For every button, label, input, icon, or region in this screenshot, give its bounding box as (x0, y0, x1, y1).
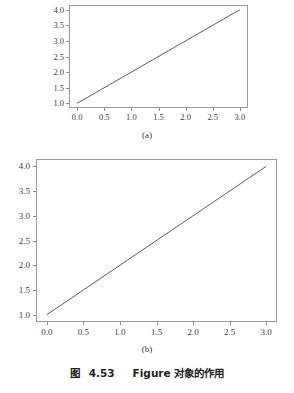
y-tick-label: 1.5 (42, 83, 64, 93)
x-tick-mark (213, 108, 214, 111)
y-tick-label: 2.0 (42, 67, 64, 77)
x-tick-mark (157, 322, 158, 325)
x-tick-mark (193, 322, 194, 325)
y-tick-label: 1.0 (42, 98, 64, 108)
x-tick-mark (104, 108, 105, 111)
chart-panel-a: 0.00.51.01.52.02.53.01.01.52.02.53.03.54… (69, 5, 248, 108)
plot-line-b (36, 159, 277, 322)
y-tick-label: 4.0 (42, 5, 64, 15)
x-tick-mark (186, 108, 187, 111)
y-tick-label: 3.0 (8, 211, 30, 221)
x-tick-mark (230, 322, 231, 325)
x-tick-label: 3.0 (235, 112, 246, 122)
figure-page: 0.00.51.01.52.02.53.01.01.52.02.53.03.54… (0, 0, 294, 393)
x-tick-label: 1.5 (151, 327, 162, 337)
x-tick-label: 2.0 (180, 112, 191, 122)
y-tick-mark (33, 191, 36, 192)
x-tick-mark (47, 322, 48, 325)
x-tick-mark (77, 108, 78, 111)
y-tick-mark (66, 10, 69, 11)
subfigure-label-b: (b) (0, 344, 294, 354)
caption-text: Figure 对象的作用 (133, 367, 225, 379)
x-tick-mark (131, 108, 132, 111)
x-tick-label: 1.0 (114, 327, 125, 337)
y-tick-label: 3.5 (8, 186, 30, 196)
subfigure-label-a: (a) (0, 130, 294, 140)
y-tick-label: 3.0 (42, 36, 64, 46)
y-tick-mark (66, 57, 69, 58)
x-tick-label: 3.0 (260, 327, 271, 337)
y-tick-mark (33, 290, 36, 291)
y-tick-label: 2.5 (42, 52, 64, 62)
x-tick-label: 0.0 (72, 112, 83, 122)
y-tick-mark (66, 25, 69, 26)
y-tick-label: 1.5 (8, 285, 30, 295)
caption-label: 图 (70, 367, 80, 379)
x-tick-mark (159, 108, 160, 111)
y-tick-mark (66, 41, 69, 42)
y-tick-mark (66, 103, 69, 104)
y-tick-label: 2.0 (8, 260, 30, 270)
y-tick-mark (66, 88, 69, 89)
chart-panel-b: 0.00.51.01.52.02.53.01.01.52.02.53.03.54… (36, 159, 277, 322)
x-tick-mark (240, 108, 241, 111)
x-tick-mark (83, 322, 84, 325)
x-tick-label: 2.5 (224, 327, 235, 337)
y-tick-label: 1.0 (8, 310, 30, 320)
y-tick-label: 4.0 (8, 161, 30, 171)
y-tick-mark (33, 216, 36, 217)
figure-caption: 图 4.53 Figure 对象的作用 (0, 365, 294, 380)
x-tick-label: 0.5 (99, 112, 110, 122)
y-tick-label: 3.5 (42, 20, 64, 30)
plot-line-a (69, 5, 248, 108)
caption-number: 4.53 (89, 367, 115, 379)
x-tick-label: 1.5 (153, 112, 164, 122)
x-tick-mark (266, 322, 267, 325)
y-tick-mark (33, 265, 36, 266)
y-tick-mark (33, 166, 36, 167)
x-tick-label: 1.0 (126, 112, 137, 122)
y-tick-mark (33, 315, 36, 316)
x-tick-label: 2.5 (207, 112, 218, 122)
x-tick-mark (120, 322, 121, 325)
x-tick-label: 0.0 (41, 327, 52, 337)
x-tick-label: 2.0 (187, 327, 198, 337)
x-tick-label: 0.5 (78, 327, 89, 337)
y-tick-mark (66, 72, 69, 73)
y-tick-mark (33, 241, 36, 242)
y-tick-label: 2.5 (8, 236, 30, 246)
